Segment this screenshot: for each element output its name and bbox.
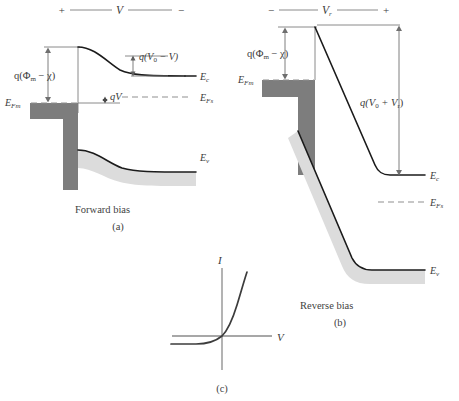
panel-b-reverse-bias: − Vr + q(Φm − χ) EFm xyxy=(237,4,443,329)
panel-a-ec-label: Ec xyxy=(199,71,210,84)
panel-b-plus-sign: + xyxy=(383,4,389,16)
panel-a-forward-bias: + V − q(Φm − χ) EFm xyxy=(4,4,213,233)
panel-b-total-arrow-head-up xyxy=(396,26,402,32)
panel-b-barrier-arrow-head-down xyxy=(282,74,288,80)
panel-b-ev-label: Ev xyxy=(429,265,440,278)
panel-a-efs-label: EFs xyxy=(199,92,213,105)
panel-a-builtin-label: q(V0 − V) xyxy=(139,51,179,64)
panel-c-iv-curve xyxy=(171,272,247,344)
panel-a-bias-symbol: V xyxy=(116,4,125,16)
panel-a-efm-label: EFm xyxy=(4,97,20,110)
panel-b-efm-label: EFm xyxy=(237,74,253,87)
panel-a-caption: Forward bias xyxy=(75,204,130,215)
panel-b-barrier-arrow-head-up xyxy=(282,28,288,34)
panel-a-metal-region xyxy=(30,103,78,190)
panel-c-tag: (c) xyxy=(216,383,228,395)
panel-a-barrier-arrow-head-up xyxy=(45,48,51,54)
band-diagram-svg: + V − q(Φm − χ) EFm xyxy=(0,0,459,401)
panel-b-bias-symbol: Vr xyxy=(322,4,332,18)
panel-b-tag: (b) xyxy=(334,317,347,329)
panel-a-ev-label: Ev xyxy=(199,152,210,165)
panel-b-barrier-label: q(Φm − χ) xyxy=(247,48,289,61)
panel-a-bias-circuit-label: + V − xyxy=(58,4,184,16)
panel-c-v-axis-label: V xyxy=(277,331,285,343)
panel-b-minus-sign: − xyxy=(268,4,274,16)
panel-a-barrier-arrow-head-down xyxy=(45,97,51,103)
panel-c-i-axis-label: I xyxy=(217,254,223,266)
panel-a-barrier-label: q(Φm − χ) xyxy=(14,70,56,83)
panel-b-bias-circuit-label: − Vr + xyxy=(268,4,389,18)
panel-c-iv-characteristic: I V (c) xyxy=(171,254,285,395)
panel-a-plus-sign: + xyxy=(58,4,65,16)
panel-a-tag: (a) xyxy=(112,221,124,233)
panel-b-ec-label: Ec xyxy=(429,170,440,183)
panel-a-valence-band-fill xyxy=(78,150,196,186)
panel-b-efs-label: EFs xyxy=(429,197,443,210)
panel-a-minus-sign: − xyxy=(178,4,184,16)
panel-b-caption: Reverse bias xyxy=(300,300,353,311)
figure-root: + V − q(Φm − χ) EFm xyxy=(0,0,459,401)
panel-a-qv-label: qV xyxy=(110,91,123,102)
panel-b-total-bending-label: q(V0 + Vr) xyxy=(360,97,404,110)
